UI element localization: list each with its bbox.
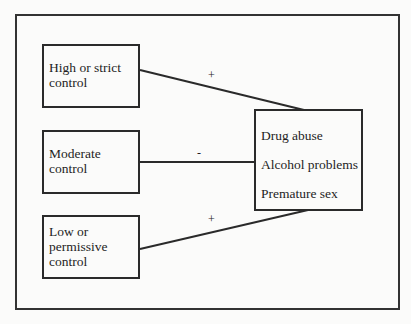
box-moderate-control-label: Moderate control (49, 146, 138, 176)
box-high-control: High or strict control (42, 44, 140, 108)
box-low-control-label: Low or permissive control (49, 224, 138, 269)
link-low-to-outcomes (140, 210, 308, 249)
box-moderate-control: Moderate control (42, 130, 140, 194)
outcome-drug-abuse: Drug abuse (261, 128, 361, 157)
box-outcomes: Drug abuse Alcohol problems Premature se… (254, 109, 363, 211)
link-high-to-outcomes (140, 70, 304, 110)
sign-low-link: + (208, 213, 215, 225)
box-high-control-label: High or strict control (49, 60, 138, 90)
box-low-control: Low or permissive control (42, 215, 140, 279)
sign-high-link: + (208, 69, 215, 81)
sign-moderate-link: - (197, 147, 201, 159)
outcome-alcohol-problems: Alcohol problems (261, 157, 361, 186)
outcome-premature-sex: Premature sex (261, 186, 361, 215)
